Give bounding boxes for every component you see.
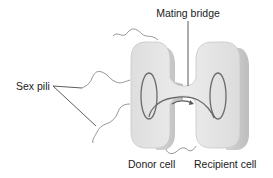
pilus-middle xyxy=(82,71,130,88)
h-shaped-cell-pair xyxy=(131,42,240,148)
conjugation-diagram: Mating bridge Sex pili Donor cell Recipi… xyxy=(0,0,273,178)
mating-bridge-label: Mating bridge xyxy=(156,7,220,19)
sex-pili-label: Sex pili xyxy=(16,80,50,92)
sex-pili-leader-1 xyxy=(53,86,82,88)
donor-cell-label: Donor cell xyxy=(128,158,175,170)
cells xyxy=(131,42,249,150)
pilus-lower xyxy=(93,104,130,143)
recipient-cell-label: Recipient cell xyxy=(194,158,256,170)
sex-pili-leader-2 xyxy=(53,86,96,126)
pilus-top xyxy=(113,29,158,40)
arrowhead-icon xyxy=(189,100,194,105)
